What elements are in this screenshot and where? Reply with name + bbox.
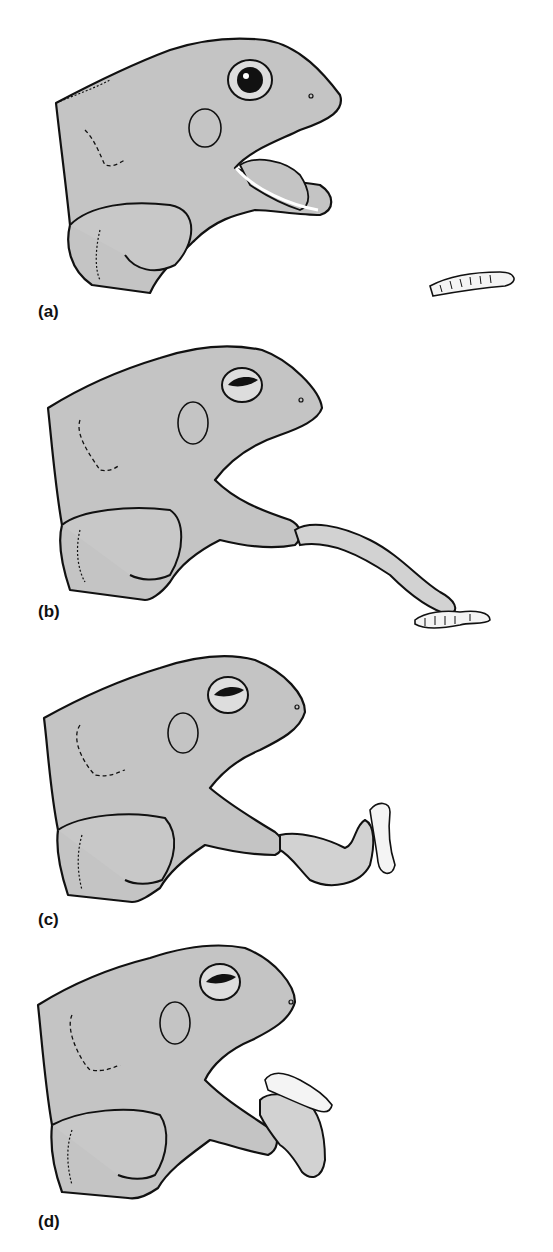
toad-illustration-b	[0, 320, 553, 640]
panel-d: (d)	[0, 930, 553, 1252]
toad-illustration-a	[0, 0, 553, 310]
panel-label-a: (a)	[38, 302, 59, 322]
panel-label-c: (c)	[38, 910, 59, 930]
panel-b: (b)	[0, 320, 553, 640]
panel-label-b: (b)	[38, 602, 60, 622]
panel-a: (a)	[0, 0, 553, 310]
panel-label-d: (d)	[38, 1212, 60, 1232]
toad-illustration-d	[0, 930, 553, 1252]
panel-c: (c)	[0, 640, 553, 940]
toad-illustration-c	[0, 640, 553, 940]
